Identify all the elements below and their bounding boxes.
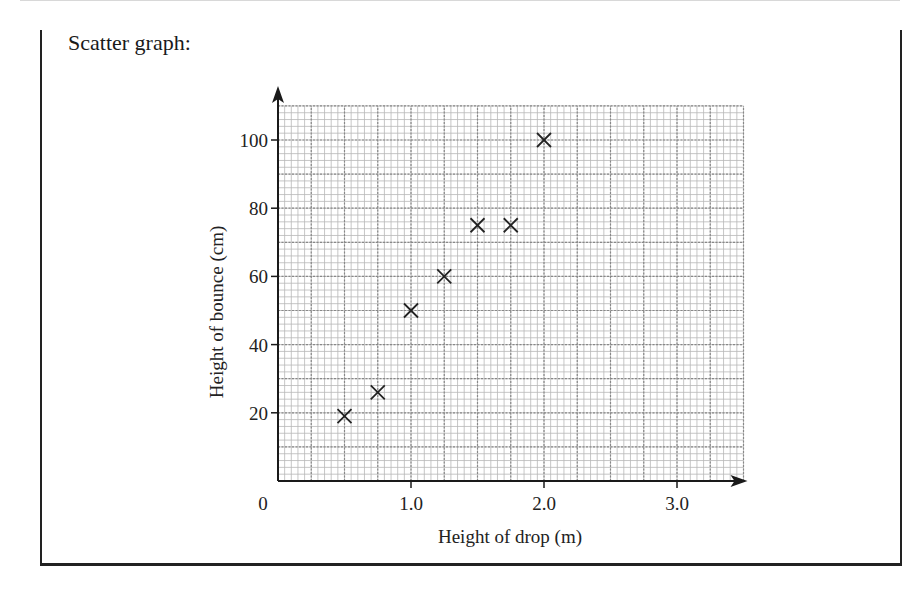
- x-tick-label: 1.0: [399, 493, 423, 514]
- y-axis-ticks: 20406080100: [240, 130, 279, 424]
- scatter-graph: 01.02.03.0 20406080100 Height of drop (m…: [0, 0, 921, 594]
- x-axis-ticks: 01.02.03.0: [258, 481, 689, 514]
- y-axis-title: Height of bounce (cm): [206, 226, 228, 399]
- y-tick-label: 60: [249, 266, 268, 287]
- y-tick-label: 40: [249, 335, 268, 356]
- x-tick-label: 0: [258, 493, 268, 514]
- y-tick-label: 20: [249, 403, 268, 424]
- x-tick-label: 3.0: [665, 493, 689, 514]
- x-tick-label: 2.0: [532, 493, 556, 514]
- y-tick-label: 100: [240, 130, 269, 151]
- x-axis-title: Height of drop (m): [438, 526, 582, 548]
- y-tick-label: 80: [249, 198, 268, 219]
